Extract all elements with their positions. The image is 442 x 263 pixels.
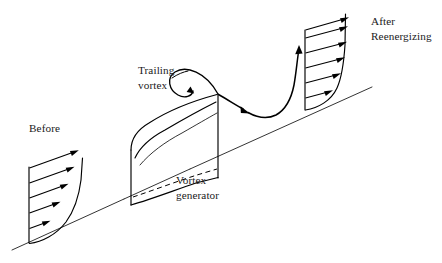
vane-upper-surface-front (131, 95, 217, 151)
before-profile-envelope (30, 158, 83, 244)
label-trailing-vortex-line1: Trailing (138, 64, 175, 76)
diagram-canvas: Before Trailing vortex Vortex generator … (0, 0, 442, 263)
vane-inner-surface-line (135, 102, 216, 158)
label-vortex-generator-line1: Vortex (176, 174, 207, 186)
trailing-vortex-curl (170, 69, 218, 96)
label-after-line1: After (371, 15, 395, 27)
after-velocity-profile (305, 14, 349, 110)
vortex-generator-diagram: Before Trailing vortex Vortex generator … (0, 0, 442, 263)
after-arrow-1 (306, 90, 334, 98)
label-vortex-generator-line2: generator (176, 189, 219, 201)
before-arrow-3 (30, 184, 69, 198)
trailing-vortex-loop (170, 69, 218, 96)
streamline-path (219, 45, 303, 117)
streamline-rise (248, 52, 299, 117)
streamline-tip-arrowhead (295, 45, 302, 54)
before-arrow-4 (30, 167, 75, 183)
before-arrow-2 (30, 202, 61, 213)
label-trailing-vortex-line2: vortex (138, 79, 167, 91)
before-arrow-5 (30, 150, 79, 168)
label-before: Before (29, 122, 60, 134)
after-arrow-3 (306, 57, 346, 68)
after-arrow-2 (306, 73, 342, 83)
after-arrow-4 (306, 42, 348, 53)
before-velocity-profile (29, 150, 83, 243)
before-arrow-1 (30, 221, 51, 229)
trailing-vortex-arrowhead (187, 87, 195, 94)
streamline-descent (219, 95, 244, 110)
label-after-line2: Reenergizing (371, 30, 432, 42)
